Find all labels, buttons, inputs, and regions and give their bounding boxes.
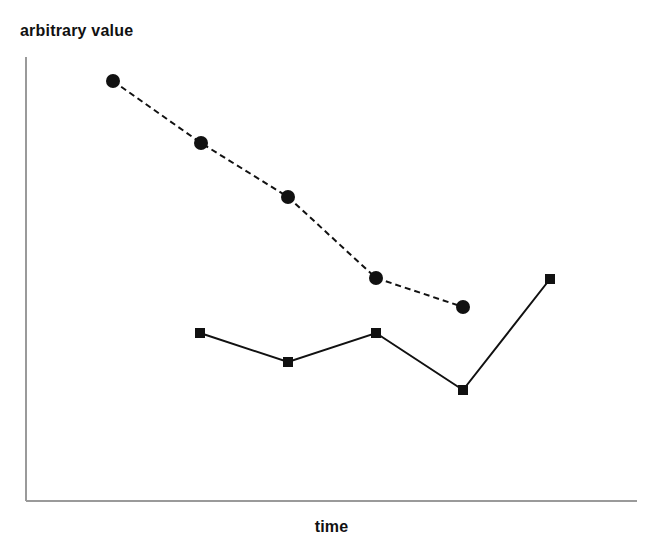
data-point-circle xyxy=(194,136,208,150)
solid-series-markers xyxy=(195,274,555,395)
data-point-square xyxy=(195,328,205,338)
chart-figure: arbitrary value time xyxy=(0,0,663,560)
data-point-square xyxy=(283,357,293,367)
data-point-circle xyxy=(369,271,383,285)
data-point-circle xyxy=(456,300,470,314)
series-solid-square xyxy=(195,274,555,395)
data-point-square xyxy=(371,328,381,338)
data-point-square xyxy=(545,274,555,284)
x-axis-label: time xyxy=(0,518,663,536)
plot-canvas xyxy=(0,0,663,560)
data-point-circle xyxy=(106,74,120,88)
data-point-square xyxy=(458,385,468,395)
series-dashed-circle xyxy=(106,74,470,314)
data-point-circle xyxy=(281,190,295,204)
dashed-series-markers xyxy=(106,74,470,314)
